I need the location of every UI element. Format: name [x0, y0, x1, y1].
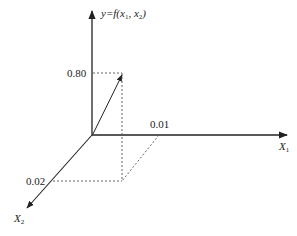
- tick-label-y-0.80: 0.80: [67, 68, 86, 79]
- figure-caption-clipped: [30, 229, 270, 236]
- dashed-line-x1-diagonal: [122, 135, 159, 181]
- x2-axis-label: X2: [14, 213, 24, 226]
- diagram-canvas: [0, 0, 297, 236]
- result-vector-arrow: [93, 75, 122, 134]
- tick-label-x1-0.01: 0.01: [150, 119, 169, 130]
- x2-axis: [27, 135, 92, 208]
- y-axis-label: y=f(x1, x2): [101, 8, 146, 21]
- tick-label-x2-0.02: 0.02: [26, 176, 45, 187]
- x1-axis-label: X1: [279, 141, 289, 154]
